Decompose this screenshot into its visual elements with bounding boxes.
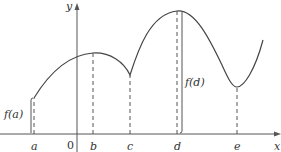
fd-height-bracket (180, 12, 182, 133)
function-curve (34, 11, 263, 98)
function-graph-figure: y x 0 a b c d e f(a) f(d) (0, 0, 281, 152)
fd-label: f(d) (184, 76, 205, 89)
x-axis-arrow-icon (274, 132, 281, 137)
y-axis-arrow-icon (75, 3, 80, 10)
fa-height-bracket (31, 98, 33, 133)
origin-label: 0 (67, 139, 74, 152)
y-axis-label: y (65, 0, 73, 13)
graph-canvas: y x 0 a b c d e f(a) f(d) (0, 0, 281, 152)
point-label-d: d (174, 140, 181, 152)
x-axis-label: x (274, 140, 281, 152)
point-label-e: e (234, 140, 241, 152)
point-label-a: a (31, 140, 38, 152)
point-label-b: b (90, 140, 97, 152)
point-label-c: c (127, 140, 133, 152)
fa-label: f(a) (3, 108, 23, 121)
